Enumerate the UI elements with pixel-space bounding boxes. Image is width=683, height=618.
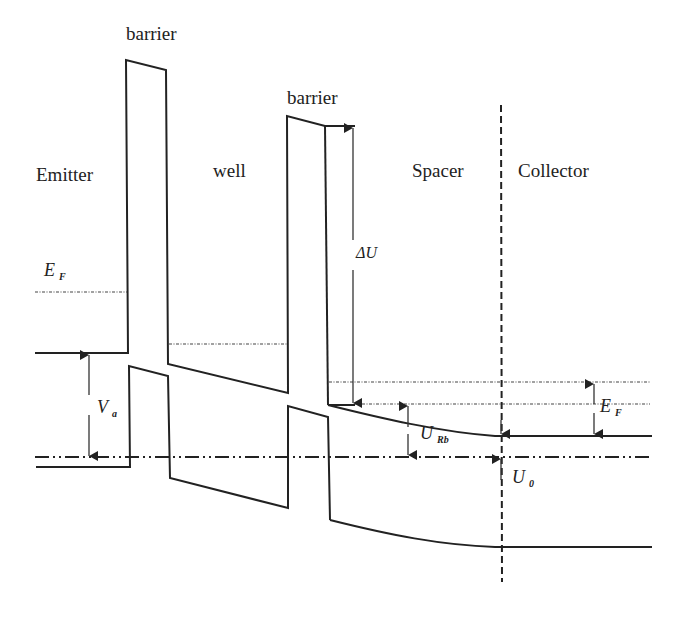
- barrier2-right-edge: [325, 126, 328, 405]
- label-well: well: [213, 160, 246, 182]
- symbol-ef-emitter: EF: [44, 260, 66, 282]
- spacer-collector-boundary: [501, 105, 502, 582]
- label-barrier-1: barrier: [126, 23, 177, 45]
- emitter-valence-band: [36, 366, 330, 520]
- label-collector: Collector: [518, 160, 589, 182]
- label-barrier-2: barrier: [287, 87, 338, 109]
- label-spacer: Spacer: [412, 160, 464, 182]
- spacer-valence-band: [330, 520, 652, 547]
- symbol-va: Va: [97, 397, 117, 419]
- symbol-ef-collector: EF: [600, 396, 622, 418]
- emitter-conduction-band: [35, 60, 355, 393]
- symbol-u0: U0: [512, 467, 534, 489]
- symbol-urb: URb: [420, 423, 449, 445]
- symbol-delta-u: ΔU: [356, 244, 377, 262]
- band-diagram: [0, 0, 683, 618]
- label-emitter: Emitter: [36, 164, 93, 186]
